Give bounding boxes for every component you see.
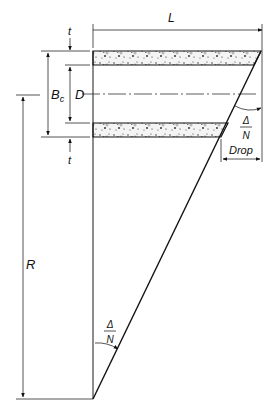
label-bc: Bc xyxy=(51,87,65,104)
label-angle-top-num: Δ xyxy=(242,115,250,126)
label-r: R xyxy=(26,257,35,272)
label-angle-bottom-den: N xyxy=(106,334,114,345)
label-t-bottom: t xyxy=(68,154,72,166)
label-t-top: t xyxy=(68,25,72,37)
label-d: D xyxy=(75,87,84,102)
label-l: L xyxy=(168,11,175,25)
label-angle-bottom-num: Δ xyxy=(106,319,114,330)
pipe-bevel-diagram: L Bc D t t R Drop Δ N Δ N xyxy=(0,0,278,414)
bevel-line xyxy=(93,51,261,399)
label-drop: Drop xyxy=(229,144,253,156)
angle-arc-top xyxy=(235,106,261,110)
pipe-lower-wall xyxy=(93,123,228,137)
pipe-upper-wall xyxy=(93,51,261,65)
label-angle-top-den: N xyxy=(242,130,250,141)
